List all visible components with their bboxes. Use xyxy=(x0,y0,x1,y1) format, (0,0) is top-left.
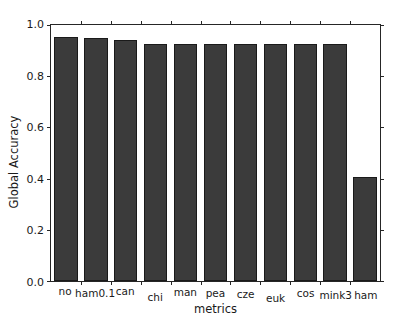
x-tick-label: man xyxy=(174,287,197,298)
y-tick-mark xyxy=(47,127,51,128)
x-tick-label-slot: mink3 xyxy=(321,286,351,302)
x-tick-mark-top xyxy=(171,21,172,25)
x-tick-mark-top xyxy=(290,21,291,25)
x-tick-mark xyxy=(320,281,321,285)
y-tick-mark-right xyxy=(380,179,384,180)
x-tick-mark-top xyxy=(141,21,142,25)
bar xyxy=(353,177,376,281)
x-tick-mark xyxy=(111,281,112,285)
x-tick-mark xyxy=(201,281,202,285)
bar-slot xyxy=(51,25,81,281)
x-tick-mark-top xyxy=(260,21,261,25)
bar-slot xyxy=(230,25,260,281)
bar xyxy=(114,40,137,281)
bar-slot xyxy=(201,25,231,281)
bar-slot xyxy=(320,25,350,281)
y-tick-label: 0.0 xyxy=(4,277,44,288)
x-tick-label: cze xyxy=(237,289,255,300)
x-tick-mark-top xyxy=(81,21,82,25)
y-tick-mark xyxy=(47,76,51,77)
x-tick-mark xyxy=(290,281,291,285)
bar xyxy=(54,37,77,281)
y-tick-mark-right xyxy=(380,25,384,26)
bar xyxy=(84,38,107,281)
x-tick-mark-top xyxy=(230,21,231,25)
x-tick-mark xyxy=(171,281,172,285)
bar xyxy=(174,44,197,281)
y-tick-label: 0.6 xyxy=(4,122,44,133)
bar xyxy=(323,44,346,281)
y-tick-mark-right xyxy=(380,127,384,128)
bar-series xyxy=(51,25,380,281)
x-tick-label-slot: cze xyxy=(230,286,260,302)
x-tick-label-slot: cos xyxy=(291,286,321,302)
bar-slot xyxy=(81,25,111,281)
y-tick-mark-right xyxy=(380,281,384,282)
bar xyxy=(204,44,227,281)
y-tick-mark xyxy=(47,25,51,26)
x-tick-mark-top xyxy=(350,21,351,25)
x-tick-mark xyxy=(81,281,82,285)
bar-slot xyxy=(290,25,320,281)
x-tick-label: pea xyxy=(206,288,226,299)
x-tick-label: mink3 xyxy=(319,290,352,301)
x-tick-label: cos xyxy=(297,288,315,299)
bar-chart-figure: Global Accuracy 0.00.20.40.60.81.0 noham… xyxy=(0,0,400,324)
x-tick-label-slot: euk xyxy=(261,286,291,302)
y-tick-mark xyxy=(47,281,51,282)
x-tick-label: can xyxy=(116,286,135,297)
bar-slot xyxy=(171,25,201,281)
x-tick-mark xyxy=(141,281,142,285)
y-tick-mark xyxy=(47,230,51,231)
y-tick-mark-right xyxy=(380,230,384,231)
y-tick-mark xyxy=(47,179,51,180)
bar-slot xyxy=(111,25,141,281)
bar xyxy=(264,44,287,281)
bar xyxy=(234,44,257,281)
x-tick-label: ham xyxy=(354,290,377,301)
x-tick-label-slot: ham0.1 xyxy=(80,286,110,302)
bar-slot xyxy=(260,25,290,281)
y-axis-tick-labels: 0.00.20.40.60.81.0 xyxy=(0,0,50,324)
x-tick-mark-top xyxy=(111,21,112,25)
y-tick-label: 0.2 xyxy=(4,225,44,236)
bar xyxy=(294,44,317,281)
x-tick-label: ham0.1 xyxy=(75,288,115,299)
x-tick-label-slot: ham xyxy=(351,286,381,302)
x-tick-label-slot: man xyxy=(170,286,200,302)
x-tick-mark-top xyxy=(320,21,321,25)
y-tick-mark-right xyxy=(380,76,384,77)
x-axis-title: metrics xyxy=(50,302,381,316)
x-tick-label-slot: chi xyxy=(140,286,170,302)
bar-slot xyxy=(350,25,380,281)
x-tick-mark xyxy=(260,281,261,285)
y-tick-label: 0.8 xyxy=(4,70,44,81)
x-tick-label-slot: pea xyxy=(200,286,230,302)
x-tick-mark-top xyxy=(201,21,202,25)
bar-slot xyxy=(141,25,171,281)
y-tick-label: 1.0 xyxy=(4,19,44,30)
bar xyxy=(144,44,167,281)
x-tick-mark xyxy=(350,281,351,285)
x-tick-label: chi xyxy=(148,292,163,303)
x-tick-mark xyxy=(230,281,231,285)
y-tick-label: 0.4 xyxy=(4,173,44,184)
x-axis-tick-labels: noham0.1canchimanpeaczeeukcosmink3ham xyxy=(50,286,381,302)
x-tick-label-slot: can xyxy=(110,286,140,302)
plot-area xyxy=(50,24,381,282)
x-tick-label: no xyxy=(58,286,71,297)
